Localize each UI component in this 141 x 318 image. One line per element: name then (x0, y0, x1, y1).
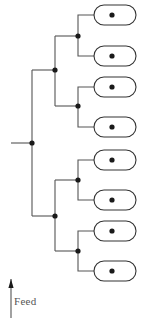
loop-reactor-3-body (94, 77, 136, 97)
loop-reactor-4-body (94, 117, 136, 137)
loop-reactor-4-inlet-node (109, 124, 114, 129)
loop-reactor-2-body (94, 46, 136, 66)
split-node-level-1-upper[interactable] (52, 67, 57, 72)
split-node-level-2-b[interactable] (75, 103, 80, 108)
loop-reactor-7[interactable] (94, 221, 136, 241)
loop-reactor-8-inlet-node (109, 268, 114, 273)
loop-reactor-3[interactable] (94, 77, 136, 97)
split-node-level-2-a[interactable] (75, 33, 80, 38)
loop-reactor-1-body (94, 5, 136, 25)
loop-reactor-2[interactable] (94, 46, 136, 66)
loop-reactor-7-body (94, 221, 136, 241)
split-node-level-2-c[interactable] (75, 177, 80, 182)
loop-reactor-5-body (94, 150, 136, 170)
feed-distribution-diagram: Feed (0, 0, 141, 318)
loop-reactor-1[interactable] (94, 5, 136, 25)
loop-reactor-7-inlet-node (109, 228, 114, 233)
loop-reactor-6-inlet-node (109, 197, 114, 202)
loop-reactor-5-inlet-node (109, 157, 114, 162)
split-node-level-0[interactable] (29, 140, 34, 145)
feed-label: Feed (14, 295, 37, 307)
split-node-level-2-d[interactable] (75, 248, 80, 253)
loop-reactor-5[interactable] (94, 150, 136, 170)
loop-reactor-2-inlet-node (109, 53, 114, 58)
loop-reactor-3-inlet-node (109, 84, 114, 89)
loop-reactor-6[interactable] (94, 190, 136, 210)
loop-reactor-4[interactable] (94, 117, 136, 137)
loop-reactor-6-body (94, 190, 136, 210)
loop-reactor-8[interactable] (94, 261, 136, 281)
split-node-level-1-lower[interactable] (52, 213, 57, 218)
loop-reactor-1-inlet-node (109, 12, 114, 17)
loop-reactor-8-body (94, 261, 136, 281)
manifold-svg: Feed (0, 0, 141, 318)
